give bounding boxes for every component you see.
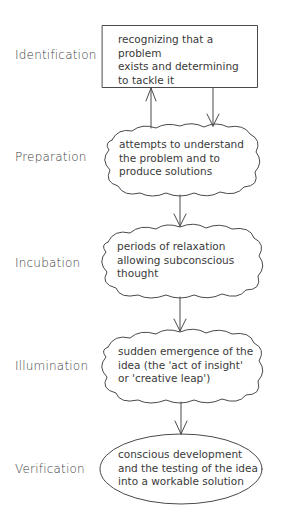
arrow-up-to-identification — [146, 88, 156, 128]
stage-label-incubation: Incubation — [15, 256, 80, 270]
stage-label-preparation: Preparation — [15, 150, 87, 164]
arrow-down-to-illumination — [174, 297, 186, 331]
stage-label-identification: Identification — [15, 48, 96, 62]
arrow-down-to-verification — [175, 402, 187, 434]
stage-description-illumination: sudden emergence of the idea (the 'act o… — [118, 345, 263, 386]
arrow-down-to-preparation — [207, 88, 219, 126]
stage-label-illumination: Illumination — [15, 359, 88, 373]
stage-description-preparation: attempts to understand the problem and t… — [119, 138, 259, 179]
stage-description-identification: recognizing that a problem exists and de… — [118, 33, 258, 87]
stage-description-verification: conscious development and the testing of… — [118, 448, 263, 489]
stage-label-verification: Verification — [15, 462, 85, 476]
stage-description-incubation: periods of relaxation allowing subconsci… — [117, 240, 262, 281]
arrow-down-to-incubation — [174, 195, 186, 226]
